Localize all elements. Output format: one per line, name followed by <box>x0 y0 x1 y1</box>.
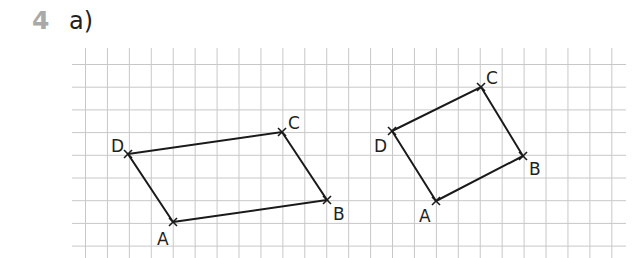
vertex-label-c: C <box>486 68 498 88</box>
rectangle-2: ABCD <box>374 68 541 226</box>
quadrilaterals: ABCDABCD <box>111 68 541 249</box>
shape-outline <box>392 87 523 201</box>
parallelogram-1: ABCD <box>111 113 345 249</box>
vertex-label-d: D <box>374 136 387 156</box>
vertex-label-b: B <box>529 159 541 179</box>
vertex-cross-icon <box>388 127 396 135</box>
vertex-label-a: A <box>157 229 169 249</box>
grid-figure: ABCDABCD <box>0 0 642 258</box>
vertex-label-a: A <box>419 206 431 226</box>
vertex-cross-icon <box>519 152 527 160</box>
grid-paper <box>72 48 626 258</box>
vertex-label-c: C <box>288 113 300 133</box>
vertex-label-b: B <box>333 204 345 224</box>
vertex-label-d: D <box>111 136 124 156</box>
shape-outline <box>128 132 327 222</box>
